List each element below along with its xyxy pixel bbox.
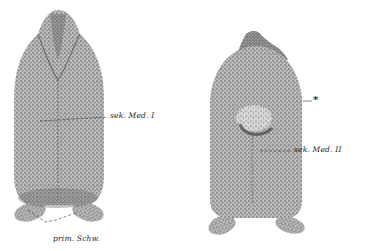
right-embryo <box>206 31 307 238</box>
embryo-illustration <box>0 0 372 251</box>
label-prim-schw: prim. Schw. <box>53 234 100 243</box>
left-embryo <box>12 10 106 225</box>
label-sek-med-1: sek. Med. I <box>110 111 154 120</box>
label-asterisk: * <box>313 94 318 105</box>
label-sek-med-2: sek. Med. II <box>294 145 342 154</box>
